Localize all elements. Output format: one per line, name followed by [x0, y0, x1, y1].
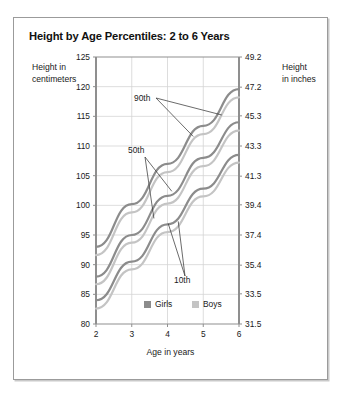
- svg-text:33.5: 33.5: [245, 289, 262, 299]
- line-chart-plot: 80859095100105110115120125 31.533.535.43…: [14, 18, 329, 381]
- svg-text:Girls: Girls: [155, 299, 172, 309]
- svg-text:49.2: 49.2: [245, 52, 262, 62]
- legend: GirlsBoys: [144, 299, 222, 309]
- svg-text:105: 105: [76, 171, 90, 181]
- svg-text:120: 120: [76, 82, 90, 92]
- svg-text:4: 4: [165, 329, 170, 339]
- annotation-labels: 90th50th10th: [128, 93, 191, 285]
- y-axis-left-ticks: 80859095100105110115120125: [76, 52, 96, 329]
- svg-text:50th: 50th: [128, 145, 145, 155]
- svg-text:10th: 10th: [174, 275, 191, 285]
- x-axis-ticks: 23456: [94, 324, 242, 339]
- svg-text:100: 100: [76, 200, 90, 210]
- chart-screenshot: Height by Age Percentiles: 2 to 6 Years …: [0, 0, 344, 396]
- svg-text:41.3: 41.3: [245, 171, 262, 181]
- svg-text:80: 80: [81, 319, 91, 329]
- svg-text:90th: 90th: [134, 93, 151, 103]
- svg-text:35.4: 35.4: [245, 260, 262, 270]
- svg-text:43.3: 43.3: [245, 141, 262, 151]
- svg-text:37.4: 37.4: [245, 230, 262, 240]
- svg-text:31.5: 31.5: [245, 319, 262, 329]
- svg-text:125: 125: [76, 52, 90, 62]
- svg-text:47.2: 47.2: [245, 82, 262, 92]
- svg-text:2: 2: [94, 329, 99, 339]
- svg-text:39.4: 39.4: [245, 200, 262, 210]
- svg-text:45.3: 45.3: [245, 111, 262, 121]
- y-axis-right-ticks: 31.533.535.437.439.441.343.345.347.249.2: [239, 52, 262, 329]
- svg-text:85: 85: [81, 289, 91, 299]
- svg-text:110: 110: [77, 141, 91, 151]
- svg-text:95: 95: [81, 230, 91, 240]
- chart-card: Height by Age Percentiles: 2 to 6 Years …: [13, 17, 328, 380]
- svg-text:6: 6: [237, 329, 242, 339]
- svg-text:90: 90: [81, 260, 91, 270]
- svg-text:115: 115: [77, 111, 91, 121]
- svg-text:5: 5: [201, 329, 206, 339]
- svg-text:3: 3: [129, 329, 134, 339]
- svg-text:Boys: Boys: [203, 299, 222, 309]
